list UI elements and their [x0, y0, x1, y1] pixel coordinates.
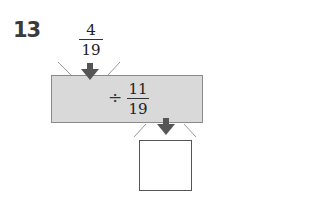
- answer-box[interactable]: [139, 140, 192, 191]
